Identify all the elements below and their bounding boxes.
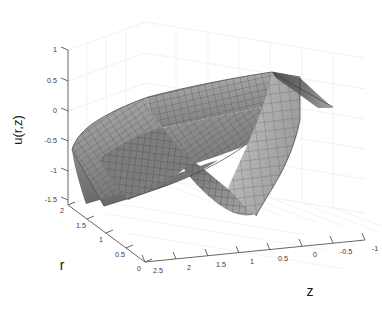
y-tick-label-1: 2 bbox=[187, 263, 191, 272]
z-tick-label-1: 0.5 bbox=[47, 76, 57, 85]
r-axis-tick-labels: 2 1.5 1 0.5 0 bbox=[60, 206, 141, 273]
y-tick-label-7: -1 bbox=[372, 244, 378, 253]
y-tick-label-2: 1.5 bbox=[216, 260, 226, 269]
z-tick-label-4: -1 bbox=[51, 166, 57, 175]
vertical-axis-label: u(r,z) bbox=[10, 115, 25, 145]
r-tick-label-1: 1.5 bbox=[76, 221, 86, 230]
y-tick-label-4: 0.5 bbox=[278, 254, 288, 263]
z-axis-label: z bbox=[307, 283, 314, 299]
y-tick-label-5: 0 bbox=[313, 250, 317, 259]
r-tick-label-2: 1 bbox=[99, 235, 103, 244]
r-tick-label-4: 0 bbox=[137, 264, 141, 273]
r-tick-label-3: 0.5 bbox=[115, 250, 125, 259]
y-tick-label-3: 1 bbox=[250, 257, 254, 266]
z-tick-label-2: 0 bbox=[53, 106, 57, 115]
r-axis-label: r bbox=[60, 257, 65, 273]
surface-mesh bbox=[72, 72, 333, 216]
plot-canvas: 1 0.5 0 -0.5 -1 -1.5 2 1.5 1 0.5 0 2.5 2… bbox=[0, 0, 382, 316]
z-axis-tick-labels: 2.5 2 1.5 1 0.5 0 -0.5 -1 bbox=[153, 244, 378, 275]
vertical-axis-ticks bbox=[61, 47, 68, 200]
y-tick-label-0: 2.5 bbox=[153, 266, 163, 275]
y-tick-label-6: -0.5 bbox=[340, 247, 352, 256]
r-axis-ticks bbox=[68, 202, 152, 262]
vertical-axis-tick-labels: 1 0.5 0 -0.5 -1 -1.5 bbox=[45, 45, 57, 204]
surface-plot-figure: 1 0.5 0 -0.5 -1 -1.5 2 1.5 1 0.5 0 2.5 2… bbox=[0, 0, 382, 316]
z-tick-label-0: 1 bbox=[53, 45, 57, 54]
z-tick-label-5: -1.5 bbox=[45, 195, 57, 204]
z-tick-label-3: -0.5 bbox=[45, 136, 57, 145]
r-axis-line bbox=[68, 205, 145, 262]
r-tick-label-0: 2 bbox=[60, 206, 64, 215]
z-axis-line bbox=[145, 240, 365, 262]
